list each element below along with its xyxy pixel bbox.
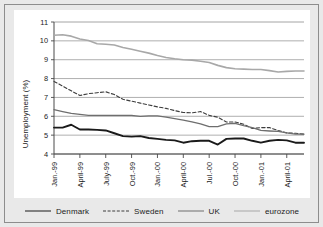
x-tick-label: Jan.-01 (257, 162, 266, 187)
chart-legend: DenmarkSwedenUKeurozone (14, 201, 310, 221)
y-tick-label: 6 (44, 112, 48, 121)
x-tick-label: July-99 (102, 162, 111, 186)
plot-card: 4567891011 Jan.-99April-99July-99Oct.-99… (14, 10, 310, 198)
series-line-sweden (54, 81, 304, 134)
y-tick-label: 8 (44, 74, 48, 83)
legend-item-uk[interactable]: UK (178, 207, 220, 216)
y-tick-label: 9 (44, 55, 48, 64)
y-tick-label: 7 (44, 93, 48, 102)
legend-item-sweden[interactable]: Sweden (103, 207, 164, 216)
x-tick-label: Oct.-99 (128, 162, 137, 186)
series-line-eurozone (54, 35, 304, 72)
legend-swatch-uk (178, 207, 204, 215)
data-series-group (54, 35, 304, 145)
x-tick-label: April-00 (179, 162, 188, 187)
legend-swatch-denmark (25, 207, 51, 215)
legend-label-uk: UK (209, 207, 220, 216)
x-tick-label: April-99 (76, 162, 85, 187)
x-tick-label: Jul.-00 (205, 162, 214, 184)
legend-label-eurozone: eurozone (265, 207, 299, 216)
y-axis-title: Unemployment (%) (21, 79, 30, 148)
y-tick-label: 5 (44, 131, 48, 140)
y-tick-label: 10 (40, 36, 48, 45)
y-tick-label: 4 (44, 150, 48, 159)
unemployment-line-chart: 4567891011 Jan.-99April-99July-99Oct.-99… (14, 10, 310, 198)
x-tick-label: Jan.-99 (50, 162, 59, 187)
legend-label-denmark: Denmark (56, 207, 89, 216)
x-axis-ticks: Jan.-99April-99July-99Oct.-99Jan.-00Apri… (50, 154, 292, 187)
x-tick-label: Oct.-00 (231, 162, 240, 186)
legend-label-sweden: Sweden (134, 207, 164, 216)
x-tick-label: April-01 (283, 162, 292, 187)
legend-item-eurozone[interactable]: eurozone (234, 207, 299, 216)
series-line-denmark (54, 125, 304, 145)
y-tick-label: 11 (40, 18, 48, 27)
chart-figure: 4567891011 Jan.-99April-99July-99Oct.-99… (0, 0, 323, 227)
y-axis-title-text: Unemployment (%) (21, 79, 30, 148)
y-axis-ticks: 4567891011 (40, 18, 54, 159)
legend-item-denmark[interactable]: Denmark (25, 207, 89, 216)
legend-swatch-sweden (103, 207, 129, 215)
legend-swatch-eurozone (234, 207, 260, 215)
x-tick-label: Jan.-00 (153, 162, 162, 187)
